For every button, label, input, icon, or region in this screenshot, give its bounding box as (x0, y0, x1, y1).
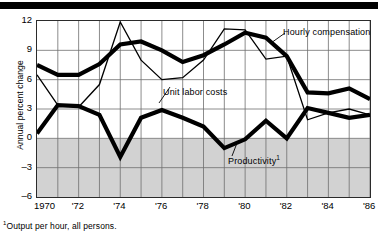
x-tick-label-1986: '86 (363, 201, 375, 211)
chart-figure: Annual percent change 12 9 6 3 0 –3 –6 1… (0, 0, 381, 235)
footnote-text: Output per hour, all persons. (6, 221, 116, 231)
x-tick-label-1970: 1970 (34, 201, 55, 211)
annotation-unit-labor-costs: Unit labor costs (163, 88, 227, 97)
annotation-productivity-footnote-marker: 1 (276, 154, 280, 161)
x-tick-label-1974: '74 (113, 201, 125, 211)
y-tick-label-0: 0 (6, 132, 32, 142)
y-tick-label-3: 3 (6, 103, 32, 113)
chart-svg (37, 21, 370, 197)
annotation-hourly-compensation: Hourly compensation (283, 28, 370, 37)
footnote: 1Output per hour, all persons. (3, 220, 117, 231)
x-tick-label-1984: '84 (321, 201, 333, 211)
y-tick-label-neg3: –3 (6, 162, 32, 172)
annotation-productivity: Productivity1 (228, 155, 280, 166)
x-tick-label-1976: '76 (155, 201, 167, 211)
x-tick-label-1980: '80 (238, 201, 250, 211)
y-tick-label-6: 6 (6, 74, 32, 84)
annotation-productivity-text: Productivity (228, 156, 276, 166)
x-tick-label-1978: '78 (197, 201, 209, 211)
y-tick-label-9: 9 (6, 44, 32, 54)
y-tick-label-12: 12 (6, 15, 32, 25)
x-tick-label-1982: '82 (280, 201, 292, 211)
x-tick-label-1972: '72 (72, 201, 84, 211)
plot-area (36, 20, 371, 198)
y-tick-label-neg6: –6 (6, 191, 32, 201)
